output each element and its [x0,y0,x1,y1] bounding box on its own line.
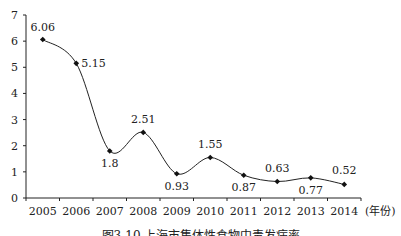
data-label: 0.52 [332,164,357,177]
diamond-marker [308,175,314,181]
data-label: 0.87 [232,181,257,194]
y-tick-label: 6 [11,35,18,48]
figure-caption: 图3-10 上海市集体性食物中毒发病率 [102,228,301,236]
diamond-marker [40,37,46,43]
y-tick-label: 1 [11,166,18,179]
y-tick-label: 3 [11,114,18,127]
diamond-marker [174,171,180,177]
y-tick-label: 2 [11,140,18,153]
y-tick-label: 5 [11,61,18,74]
x-axis-label: (年份) [365,204,396,218]
data-label: 2.51 [131,113,156,126]
diamond-marker [207,155,213,161]
x-axis-ticks: 2005200620072008200920102011201220132014 [26,198,361,218]
y-tick-label: 0 [11,192,18,205]
data-label: 0.63 [265,162,290,175]
x-tick-label: 2011 [230,205,258,218]
y-axis-ticks: 01234567 [11,9,26,205]
x-tick-label: 2008 [129,205,157,218]
y-tick-label: 7 [11,9,18,22]
diamond-marker [73,61,79,67]
line-chart: 01234567 2005200620072008200920102011201… [0,0,401,236]
x-tick-label: 2007 [96,205,124,218]
diamond-marker [274,179,280,185]
data-label: 1.55 [198,138,223,151]
axes [26,15,361,198]
x-tick-label: 2010 [196,205,224,218]
x-tick-label: 2014 [330,205,358,218]
x-tick-label: 2009 [163,205,191,218]
x-tick-label: 2005 [29,205,57,218]
data-label: 5.15 [81,57,106,70]
y-tick-label: 4 [11,87,18,100]
x-tick-label: 2013 [297,205,325,218]
x-tick-label: 2006 [62,205,90,218]
diamond-marker [241,172,247,178]
data-label: 1.8 [101,157,119,170]
diamond-marker [341,182,347,188]
data-label: 0.93 [165,180,190,193]
x-tick-label: 2012 [263,205,291,218]
data-labels: 6.065.151.82.510.931.550.870.630.770.52 [31,21,357,197]
data-label: 0.77 [299,184,324,197]
diamond-marker [140,130,146,136]
data-label: 6.06 [31,21,56,34]
